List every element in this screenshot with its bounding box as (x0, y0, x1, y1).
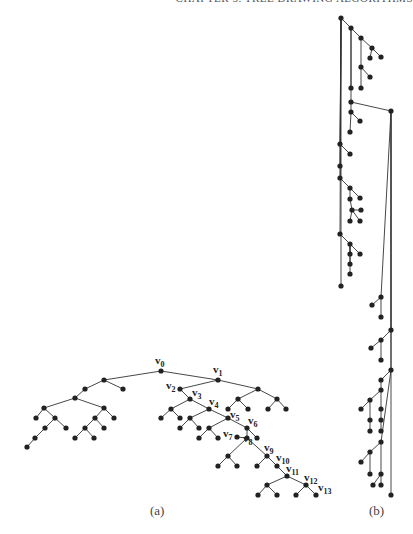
tree-node (168, 406, 173, 411)
tree-node (337, 163, 342, 168)
tree-node (82, 425, 87, 430)
node-label: v1 (213, 363, 223, 378)
tree-node (358, 406, 363, 411)
tree-edge (218, 380, 258, 389)
tree-node (274, 463, 279, 468)
tree-node (367, 417, 372, 422)
tree-node (337, 141, 342, 146)
tree-node (206, 406, 211, 411)
tree-node (388, 327, 393, 332)
tree-node (265, 406, 270, 411)
tree-node (358, 85, 363, 90)
tree-node (33, 415, 38, 420)
tree-node (347, 261, 352, 266)
tree-node (215, 435, 220, 440)
tree-node (235, 396, 240, 401)
tree-node (245, 406, 250, 411)
tree-node (274, 492, 279, 497)
tree-node (378, 482, 383, 487)
tree-edge (190, 409, 209, 418)
tree-node (367, 397, 372, 402)
node-label: v8 (243, 432, 253, 447)
tree-node (82, 386, 87, 391)
tree-node (378, 314, 383, 319)
tree-node (347, 218, 352, 223)
node-label: v13 (318, 481, 332, 496)
node-label: v0 (155, 354, 165, 369)
tree-node (369, 302, 374, 307)
tree-node (274, 396, 279, 401)
tree-edge (44, 398, 75, 408)
tree-node (264, 482, 269, 487)
tree-node (349, 207, 354, 212)
tree-node (347, 151, 352, 156)
tree-node (388, 367, 393, 372)
tree-node (388, 108, 393, 113)
tree-node (254, 463, 259, 468)
tree-node (255, 386, 260, 391)
tree-node (41, 405, 46, 410)
tree-node (357, 118, 362, 123)
tree-node (337, 175, 342, 180)
tree-node (254, 435, 259, 440)
tree-edge (258, 389, 277, 399)
tree-node (347, 271, 352, 276)
caption-b: (b) (369, 503, 384, 519)
tree-node (206, 425, 211, 430)
tree-edge (171, 399, 190, 409)
tree-edge (104, 371, 161, 380)
tree-node (293, 492, 298, 497)
tree-edge (267, 476, 287, 485)
tree-node (378, 439, 383, 444)
tree-node (111, 415, 116, 420)
tree-edge (238, 389, 258, 399)
tree-node (378, 357, 383, 362)
tree-node (378, 428, 383, 433)
tree-node (313, 492, 318, 497)
tree-node (357, 251, 362, 256)
tree-node (215, 463, 220, 468)
tree-figure: v0v1v2v3v4v5v6v8v7v9v10v11v12v13 (0, 0, 413, 534)
tree-node (347, 251, 352, 256)
tree-edge (85, 380, 104, 389)
tree-node (187, 415, 192, 420)
tree-node (367, 428, 372, 433)
tree-node (378, 417, 383, 422)
tree-node (370, 482, 375, 487)
tree-node (91, 435, 96, 440)
tree-node (369, 45, 374, 50)
node-label: v5 (230, 408, 240, 423)
tree-node (358, 459, 363, 464)
tree-node (92, 415, 97, 420)
tree-node (378, 387, 383, 392)
tree-node (338, 283, 343, 288)
tree-node (378, 337, 383, 342)
tree-node (378, 406, 383, 411)
tree-node (177, 386, 182, 391)
tree-node (357, 218, 362, 223)
tree-edge (381, 111, 391, 297)
tree-node (348, 85, 353, 90)
tree-node (378, 294, 383, 299)
tree-node (52, 415, 57, 420)
tree-node (101, 377, 106, 382)
node-label: v9 (264, 441, 274, 456)
tree-node (388, 492, 393, 497)
tree-node (348, 25, 353, 30)
tree-node (367, 55, 372, 60)
tree-node (367, 449, 372, 454)
tree-node (32, 435, 37, 440)
tree-node (63, 425, 68, 430)
tree-node (337, 231, 342, 236)
tree-node (347, 185, 352, 190)
tree-node (347, 241, 352, 246)
tree-edge (104, 380, 123, 389)
tree-node (234, 463, 239, 468)
tree-edge (350, 112, 351, 132)
tree-node (177, 415, 182, 420)
tree-node (120, 386, 125, 391)
tree-node (158, 415, 163, 420)
tree-node (378, 377, 383, 382)
tree-node (338, 15, 343, 20)
tree-node (234, 434, 239, 439)
